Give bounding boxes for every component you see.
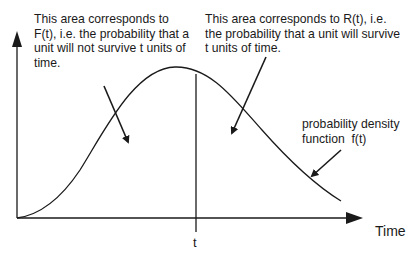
annotation-line: time.	[34, 56, 189, 71]
annotation-line: t units of time.	[205, 41, 400, 56]
pdf-arrow	[312, 150, 341, 176]
annotation-line: unit will not survive t units of	[34, 41, 189, 56]
f-area-annotation: This area corresponds to F(t), i.e. the …	[34, 12, 189, 70]
y-axis-arrowhead-icon	[12, 31, 22, 47]
annotation-line: F(t), i.e. the probability that a	[34, 27, 189, 42]
pdf-curve	[17, 67, 341, 218]
f-area-arrow	[104, 86, 128, 142]
t-marker-label: t	[193, 236, 197, 251]
annotation-line: function f(t)	[302, 132, 400, 147]
r-area-arrow	[232, 57, 266, 133]
annotation-line: This area corresponds to	[34, 12, 189, 27]
x-axis-arrowhead-icon	[346, 212, 363, 224]
x-axis-label: Time	[375, 224, 406, 239]
r-area-annotation: This area corresponds to R(t), i.e. the …	[205, 12, 400, 56]
annotation-line: the probability that a unit will survive	[205, 27, 400, 42]
annotation-line: This area corresponds to R(t), i.e.	[205, 12, 400, 27]
pdf-annotation: probability density function f(t)	[302, 117, 400, 146]
annotation-line: probability density	[302, 117, 400, 132]
